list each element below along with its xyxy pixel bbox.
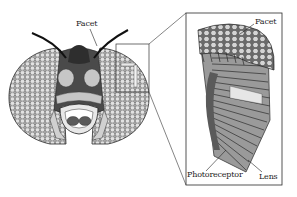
zoom-line-bottom	[149, 92, 186, 185]
inset-panel	[186, 13, 282, 185]
inset-facet-label: Facet	[255, 17, 276, 26]
head-facet-label: Facet	[76, 19, 97, 28]
vertex	[68, 45, 90, 64]
right-cheek-patch	[84, 69, 100, 87]
head-facet-leader	[90, 29, 97, 46]
zoom-line-top	[149, 13, 186, 44]
lens-label: Lens	[259, 172, 278, 181]
compound-eye-diagram: Facet Facet Photoreceptor Lens	[0, 0, 297, 197]
photoreceptor-label: Photoreceptor	[187, 170, 243, 179]
mandible-right	[79, 117, 91, 126]
left-cheek-patch	[58, 69, 74, 87]
insect-head	[9, 30, 149, 144]
mandible-left	[67, 117, 79, 126]
